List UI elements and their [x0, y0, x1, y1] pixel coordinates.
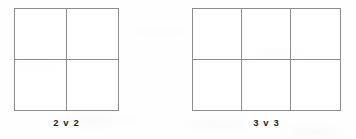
figure-canvas: 2 v 2 3 v 3 — [0, 0, 356, 139]
grid-3v3 — [192, 8, 341, 111]
grid-cell — [193, 9, 242, 60]
grid-cell — [67, 9, 119, 60]
grid-2v2 — [14, 8, 119, 111]
grid-cell — [291, 60, 340, 111]
grid-cell — [242, 60, 291, 111]
grid-cell — [291, 9, 340, 60]
grid-cell — [15, 9, 67, 60]
grid-cell — [193, 60, 242, 111]
grid-cell — [67, 60, 119, 111]
grid-cell — [15, 60, 67, 111]
grid-cell — [242, 9, 291, 60]
figure-caption-3v3: 3 v 3 — [192, 117, 341, 128]
figure-caption-2v2: 2 v 2 — [14, 117, 119, 128]
